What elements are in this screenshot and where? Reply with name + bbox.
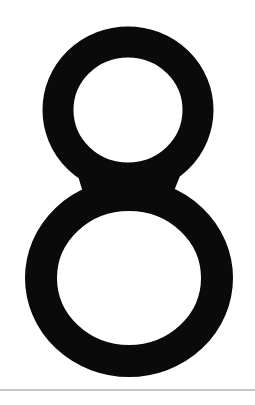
digit-eight-glyph: [0, 0, 255, 405]
figure-canvas: 8: [0, 0, 255, 405]
bottom-divider-line: [0, 389, 255, 391]
upper-loop: [58, 42, 198, 178]
lower-loop: [41, 195, 217, 361]
